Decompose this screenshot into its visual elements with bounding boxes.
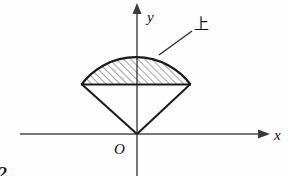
callout-leader-line [159, 31, 192, 55]
kite-lower-right-edge [137, 84, 191, 134]
x-axis-arrowhead [258, 130, 270, 139]
y-axis-arrowhead [133, 3, 142, 14]
figure-canvas: y x O 上 2 [0, 0, 288, 176]
y-axis-label: y [145, 9, 154, 25]
kite-lower-left-edge [82, 84, 138, 134]
axes-group [20, 3, 270, 176]
corner-partial-glyph: 2 [0, 163, 8, 176]
origin-label: O [114, 141, 125, 157]
x-axis-label: x [273, 127, 281, 143]
geometry-figure: y x O 上 2 [0, 0, 288, 176]
region-callout-label: 上 [194, 15, 209, 33]
kite-lower-edges-group [82, 84, 191, 134]
